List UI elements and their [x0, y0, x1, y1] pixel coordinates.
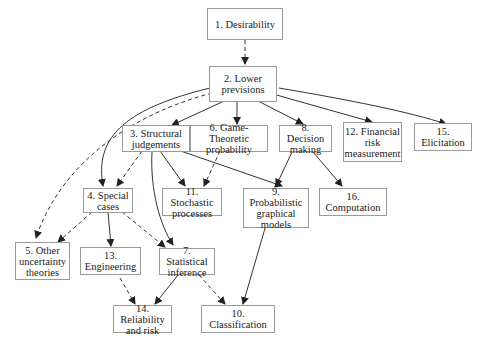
edge-7-10: [199, 275, 225, 304]
node-statistical-inference: 7. Statistical inference: [159, 248, 215, 275]
edge-8-16: [313, 152, 342, 186]
edge-2-12: [273, 94, 372, 122]
edge-13-14: [120, 278, 135, 304]
node-elicitation: 15. Elicitation: [414, 123, 472, 151]
edge-4-7: [122, 212, 165, 247]
edge-3-11: [160, 151, 185, 186]
chapter-dependency-diagram: 1. Desirability 2. Lower previsions 3. S…: [0, 0, 489, 346]
edge-4-13: [108, 212, 111, 246]
node-classification: 10. Classification: [201, 305, 275, 333]
edge-2-8: [258, 101, 303, 124]
node-other-uncertainty-theories: 5. Other uncertainty theories: [15, 242, 70, 280]
edge-3-4: [117, 151, 142, 186]
edge-6-11: [204, 151, 220, 186]
node-game-theoretic-probability: 6. Game-Theoretic probability: [190, 125, 268, 152]
node-desirability: 1. Desirability: [207, 8, 283, 40]
node-probabilistic-graphical-models: 9. Probabilistic graphical models: [243, 188, 309, 228]
edge-7-14: [155, 275, 178, 304]
node-engineering: 13. Engineering: [80, 247, 141, 275]
node-reliability-and-risk: 14. Reliability and risk: [113, 305, 172, 333]
edge-8-9: [276, 152, 292, 186]
node-special-cases: 4. Special cases: [83, 188, 133, 213]
node-financial-risk-measurement: 12. Financial risk measurement: [343, 122, 402, 162]
node-structural-judgements: 3. Structural judgements: [122, 125, 190, 152]
node-computation: 16. Computation: [319, 188, 387, 216]
edge-9-10: [243, 218, 268, 304]
edge-4-5: [58, 212, 92, 242]
edge-2-15: [279, 88, 446, 124]
node-lower-previsions: 2. Lower previsions: [209, 66, 277, 102]
node-stochastic-processes: 11. Stochastic processes: [162, 188, 222, 216]
node-decision-making: 8. Decision making: [279, 125, 332, 152]
edges-layer: [0, 0, 489, 346]
